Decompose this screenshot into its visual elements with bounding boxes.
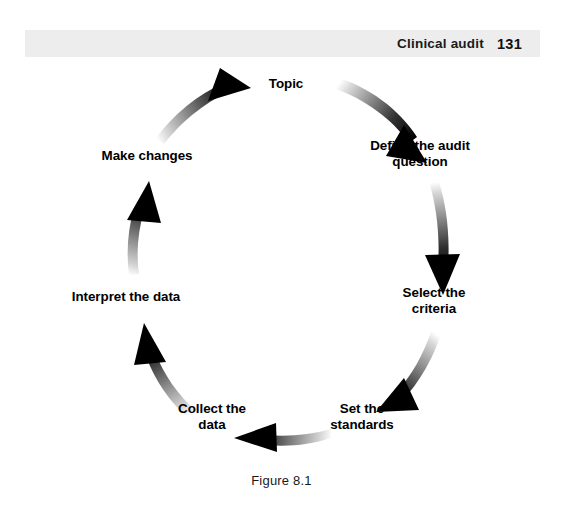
cycle-node-interpret-data[interactable]: Interpret the data [72,289,180,305]
figure-caption: Figure 8.1 [0,473,563,488]
arrow-standards-to-collect [234,423,331,452]
cycle-node-set-standards[interactable]: Set the standards [330,401,394,434]
cycle-node-select-criteria[interactable]: Select the criteria [403,285,466,318]
header-page-number: 131 [497,36,522,52]
clinical-audit-cycle-figure: Topic Define the audit question Select t… [0,57,563,510]
cycle-node-make-changes[interactable]: Make changes [102,148,193,164]
arrow-interpret-to-changes [127,181,161,275]
arrow-define-to-select [425,178,460,295]
header-chapter-title: Clinical audit [397,36,484,51]
cycle-node-topic[interactable]: Topic [269,76,303,92]
cycle-node-define-question[interactable]: Define the audit question [370,138,470,171]
cycle-node-collect-data[interactable]: Collect the data [178,401,246,434]
arrow-select-to-standards [376,329,442,412]
arrow-changes-to-topic [156,68,251,144]
running-header: Clinical audit 131 [25,30,540,57]
cycle-diagram [0,57,563,477]
